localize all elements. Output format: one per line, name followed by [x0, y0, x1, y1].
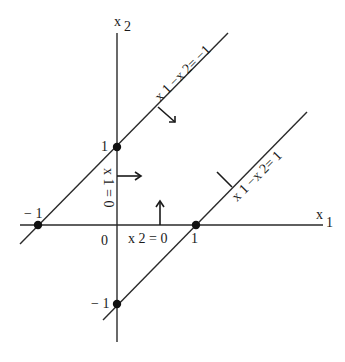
lower-line-normal-tick — [217, 172, 232, 187]
point-1-0 — [192, 221, 200, 229]
point-0-neg1 — [113, 300, 121, 308]
x2-tick-1: 1 — [101, 139, 108, 154]
x1-tick-1: 1 — [191, 231, 198, 246]
upper-line-normal-arrow — [158, 107, 175, 122]
x2-zero-arrow — [156, 201, 164, 225]
upper-line-equation: x 1 −x 2= −1 — [152, 42, 214, 104]
diagram-canvas: x 1 x 2 0 1 − 1 1 − 1 x 2 = 0 x 1 = 0 x … — [0, 0, 345, 362]
x2-zero-label: x 2 = 0 — [128, 231, 167, 246]
point-neg1-0 — [34, 221, 42, 229]
x1-zero-label: x 1 = 0 — [101, 168, 116, 207]
x1-zero-arrow — [117, 172, 141, 180]
x2-axis-label: x — [114, 14, 121, 29]
x2-tick-neg1: − 1 — [91, 296, 109, 311]
origin-label: 0 — [101, 233, 108, 248]
lower-line-equation: x 1 −x 2= 1 — [229, 148, 285, 204]
lower-line — [103, 112, 307, 320]
x1-tick-neg1: − 1 — [24, 206, 42, 221]
point-0-1 — [113, 143, 121, 151]
x1-axis-sub: 1 — [326, 215, 333, 230]
x1-axis-label: x — [316, 207, 323, 222]
x2-axis-sub: 2 — [124, 19, 131, 34]
